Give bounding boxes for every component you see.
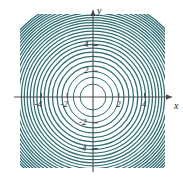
figure-container: -4-22442-2-4 x y: [0, 0, 183, 179]
y-tick-label: 2: [84, 66, 89, 75]
y-axis-label: y: [97, 6, 101, 16]
x-axis-label: x: [174, 101, 178, 111]
y-tick-label: 4: [84, 40, 89, 49]
x-tick-label: -4: [34, 100, 42, 109]
y-tick-label: -2: [79, 118, 87, 127]
x-tick-label: 4: [142, 100, 147, 109]
y-axis-arrowhead: [90, 10, 95, 16]
x-tick-label: -2: [60, 100, 68, 109]
x-tick-label: 2: [116, 100, 121, 109]
x-axis-arrowhead: [166, 94, 172, 99]
contour-plot-canvas: [0, 0, 183, 179]
y-tick-label: -4: [79, 144, 87, 153]
contour-rings-group: [0, 0, 183, 179]
